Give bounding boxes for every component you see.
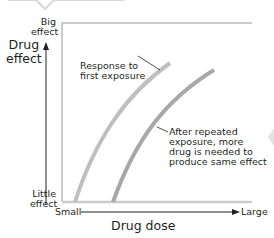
leader-line-curve2 [157,127,168,132]
x-axis-title: Drug dose [111,219,175,233]
callout-decoration [8,0,125,9]
y-axis-title-line2: effect [6,52,42,66]
y-axis-title-line1: Drug [6,38,42,52]
y-axis-arrowhead-icon [43,42,49,50]
y-max-label-line2: effect [31,27,56,37]
y-min-label-line2: effect [30,199,56,209]
curve2-annotation: After repeated exposure, more drug is ne… [169,127,267,167]
right-edge-decoration [268,128,274,146]
curve1-annotation-line2: first exposure [80,71,145,81]
y-min-label: Little effect [30,189,56,209]
x-max-label: Large [241,207,268,217]
y-axis-title: Drug effect [6,38,42,66]
y-max-label: Big effect [31,17,56,37]
curve1-annotation: Response to first exposure [80,61,145,81]
curve2-annotation-line4: produce same effect [169,157,267,167]
plot-frame [62,23,252,201]
x-min-label: Small [55,207,81,217]
x-axis-arrowhead-icon [232,209,240,215]
